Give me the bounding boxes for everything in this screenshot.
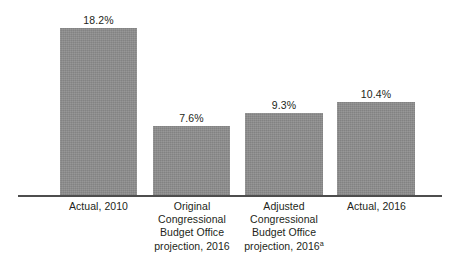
category-label-4: Actual, 2016: [324, 200, 429, 213]
bar-value-label-4: 10.4%: [337, 88, 415, 100]
bar-chart: 18.2% 7.6% 9.3% 10.4% Actual, 2010 Origi…: [0, 0, 460, 268]
category-label-3-line-4-text: projection, 2016: [244, 240, 320, 252]
category-label-3-line-4: projection, 2016a: [228, 240, 340, 253]
bar-value-label-3: 9.3%: [245, 99, 323, 111]
category-label-4-line-1: Actual, 2016: [324, 200, 429, 213]
bar-rect-4: [337, 102, 415, 196]
category-axis-labels: Actual, 2010 Original Congressional Budg…: [0, 200, 460, 268]
bar-rect-2: [153, 126, 230, 196]
bar-value-label-1: 18.2%: [60, 14, 137, 26]
category-label-3-line-2: Congressional: [228, 213, 340, 226]
x-axis-line: [18, 195, 442, 197]
plot-area: 18.2% 7.6% 9.3% 10.4%: [0, 0, 460, 196]
footnote-marker-a: a: [320, 238, 324, 247]
bar-group-1: 18.2%: [60, 14, 137, 196]
bar-rect-1: [60, 28, 137, 196]
bar-group-4: 10.4%: [337, 14, 415, 196]
bar-group-3: 9.3%: [245, 14, 323, 196]
bar-rect-3: [245, 113, 323, 196]
bar-value-label-2: 7.6%: [153, 112, 230, 124]
bar-group-2: 7.6%: [153, 14, 230, 196]
